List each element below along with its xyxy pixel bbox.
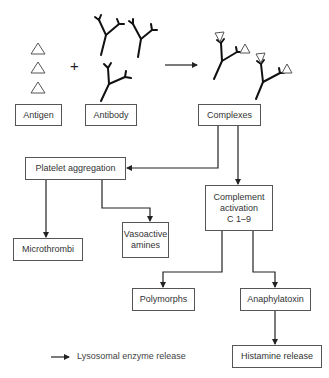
complement-line3: C 1–9 [227, 214, 251, 225]
vasoactive-amines-box: Vasoactive amines [122, 222, 169, 258]
antibody-box: Antibody [85, 104, 137, 126]
diagram-canvas [0, 0, 329, 378]
histamine-release-box: Histamine release [232, 345, 322, 368]
anaphylatoxin-box: Anaphylatoxin [240, 288, 311, 311]
plus-sign: + [70, 57, 79, 74]
complement-line2: activation [220, 203, 258, 214]
complexes-box: Complexes [198, 104, 261, 126]
antibody-y-shapes-icon [95, 15, 157, 101]
polymorphs-box: Polymorphs [132, 288, 195, 311]
histamine-release-label: Histamine release [241, 351, 313, 362]
vasoactive-line1: Vasoactive [124, 229, 167, 240]
platelet-aggregation-box: Platelet aggregation [25, 157, 126, 180]
anaphylatoxin-label: Anaphylatoxin [247, 294, 304, 305]
antibody-label: Antibody [93, 110, 128, 121]
complement-line1: Complement [213, 192, 264, 203]
legend-label: Lysosomal enzyme release [77, 351, 186, 361]
edge-platelet-vasoactive [102, 180, 150, 221]
microthrombi-label: Microthrombi [22, 244, 74, 255]
complexes-label: Complexes [207, 110, 252, 121]
edge-complement-anaphylatoxin [253, 231, 275, 287]
immune-complex-icon [214, 32, 292, 99]
edge-complement-polymorphs [163, 231, 222, 287]
edge-complexes-platelet [127, 125, 218, 168]
antigen-triangles-icon [31, 43, 45, 93]
antigen-box: Antigen [15, 104, 62, 126]
complement-activation-box: Complement activation C 1–9 [205, 185, 273, 231]
antigen-label: Antigen [23, 110, 54, 121]
platelet-aggregation-label: Platelet aggregation [35, 163, 115, 174]
polymorphs-label: Polymorphs [140, 294, 188, 305]
vasoactive-line2: amines [131, 240, 160, 251]
microthrombi-box: Microthrombi [13, 238, 83, 261]
